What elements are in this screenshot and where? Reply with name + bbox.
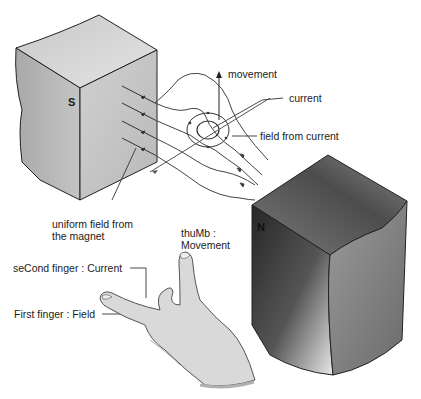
hand-illustration — [100, 252, 255, 387]
field-from-current-label: field from current — [260, 130, 339, 142]
uniform-field-label-line1: uniform field from — [52, 218, 133, 230]
second-finger-label: seCond finger : Current — [13, 262, 122, 274]
diagram-svg — [0, 0, 421, 399]
north-pole-label: N — [257, 221, 265, 233]
thumb-label-line1: thuMb : — [181, 227, 216, 239]
field-lines — [155, 73, 268, 200]
south-magnet — [16, 15, 157, 200]
movement-label: movement — [228, 68, 277, 80]
south-pole-label: S — [68, 96, 75, 108]
current-label: current — [289, 92, 322, 104]
thumb-label-line2: Movement — [181, 239, 230, 251]
north-magnet — [252, 155, 407, 375]
uniform-field-label-line2: the magnet — [52, 230, 105, 242]
first-finger-label: First finger : Field — [14, 308, 95, 320]
movement-arrow — [216, 71, 222, 120]
diagram-canvas: S N movement current field from current … — [0, 0, 421, 399]
